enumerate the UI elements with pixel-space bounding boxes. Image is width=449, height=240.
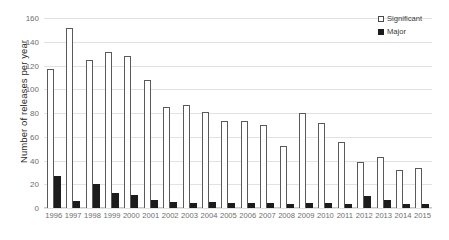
bar-group <box>102 18 121 208</box>
bar-group <box>277 18 296 208</box>
bar-major <box>422 204 429 208</box>
x-tick-label: 2002 <box>160 211 179 220</box>
bar-major <box>325 203 332 208</box>
bar-significant <box>124 56 131 208</box>
bar-significant <box>66 28 73 209</box>
bar-group <box>63 18 82 208</box>
x-tick-label: 2004 <box>199 211 218 220</box>
bar-major <box>73 201 80 208</box>
bar-significant <box>221 121 228 208</box>
bar-major <box>228 203 235 208</box>
legend-label: Major <box>387 27 406 36</box>
bar-group <box>141 18 160 208</box>
bar-major <box>93 184 100 208</box>
legend-label: Significant <box>387 14 422 23</box>
bar-major <box>54 176 61 208</box>
bar-group <box>122 18 141 208</box>
bar-group <box>335 18 354 208</box>
x-tick-label: 2006 <box>238 211 257 220</box>
y-tick-label: 80 <box>30 109 39 118</box>
x-axis-labels: 1996199719981999200020012002200320042005… <box>44 211 432 220</box>
bar-significant <box>357 162 364 208</box>
bar-significant <box>280 146 287 208</box>
x-tick-label: 2003 <box>180 211 199 220</box>
y-tick-label: 100 <box>26 85 39 94</box>
bar-group <box>219 18 238 208</box>
bar-significant <box>163 107 170 208</box>
bar-group <box>296 18 315 208</box>
bar-major <box>190 203 197 208</box>
bars-layer <box>44 18 432 208</box>
bar-group <box>238 18 257 208</box>
y-tick-label: 160 <box>26 14 39 23</box>
x-tick-label: 2000 <box>122 211 141 220</box>
x-tick-label: 2012 <box>355 211 374 220</box>
bar-group <box>44 18 63 208</box>
bar-significant <box>144 80 151 208</box>
filled-square-swatch <box>378 29 384 35</box>
x-tick-label: 2008 <box>277 211 296 220</box>
bar-significant <box>396 170 403 208</box>
bar-group <box>316 18 335 208</box>
x-tick-label: 2014 <box>393 211 412 220</box>
y-tick-label: 20 <box>30 180 39 189</box>
x-tick-label: 1996 <box>44 211 63 220</box>
bar-major <box>248 203 255 208</box>
bar-group <box>374 18 393 208</box>
open-square-swatch <box>378 16 384 22</box>
x-tick-label: 2005 <box>219 211 238 220</box>
bar-significant <box>338 142 345 209</box>
y-tick-label: 140 <box>26 37 39 46</box>
bar-chart: Number of releases per year 020406080100… <box>0 0 449 240</box>
bar-group <box>393 18 412 208</box>
bar-major <box>170 202 177 208</box>
x-tick-label: 2010 <box>316 211 335 220</box>
bar-group <box>83 18 102 208</box>
bar-significant <box>299 113 306 208</box>
x-tick-label: 2011 <box>335 211 354 220</box>
bar-major <box>384 200 391 208</box>
bar-major <box>112 193 119 208</box>
x-tick-label: 1998 <box>83 211 102 220</box>
y-tick-label: 120 <box>26 61 39 70</box>
x-tick-label: 2001 <box>141 211 160 220</box>
x-tick-label: 2007 <box>257 211 276 220</box>
bar-major <box>364 196 371 208</box>
bar-group <box>257 18 276 208</box>
bar-significant <box>241 121 248 208</box>
x-tick-label: 1999 <box>102 211 121 220</box>
bar-major <box>267 203 274 208</box>
bar-major <box>209 202 216 208</box>
bar-group <box>355 18 374 208</box>
bar-significant <box>86 60 93 208</box>
y-tick-label: 40 <box>30 156 39 165</box>
bar-group <box>180 18 199 208</box>
x-tick-label: 2013 <box>374 211 393 220</box>
bar-major <box>131 195 138 208</box>
x-tick-label: 1997 <box>63 211 82 220</box>
x-tick-label: 2015 <box>413 211 432 220</box>
y-tick-label: 60 <box>30 132 39 141</box>
bar-significant <box>260 125 267 208</box>
bar-significant <box>47 69 54 208</box>
bar-group <box>199 18 218 208</box>
plot-area: 020406080100120140160 <box>44 18 432 208</box>
bar-significant <box>377 157 384 208</box>
bar-major <box>306 203 313 208</box>
bar-group <box>413 18 432 208</box>
legend-item: Significant <box>378 14 422 23</box>
bar-significant <box>202 112 209 208</box>
bar-significant <box>318 123 325 209</box>
bar-major <box>287 204 294 208</box>
bar-major <box>345 204 352 208</box>
bar-significant <box>105 52 112 208</box>
bar-major <box>403 204 410 208</box>
bar-significant <box>415 168 422 208</box>
bar-significant <box>183 105 190 208</box>
gridline: 0 <box>44 208 432 209</box>
y-tick-label: 0 <box>35 204 39 213</box>
legend-item: Major <box>378 27 422 36</box>
bar-group <box>160 18 179 208</box>
x-tick-label: 2009 <box>296 211 315 220</box>
bar-major <box>151 200 158 208</box>
